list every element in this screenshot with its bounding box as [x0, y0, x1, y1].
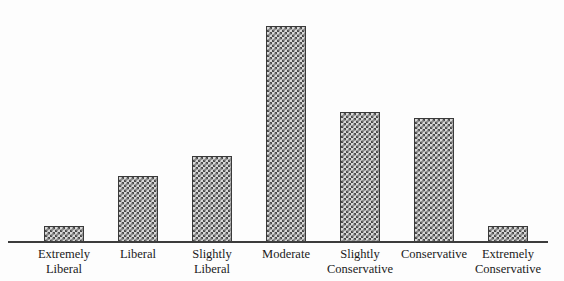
x-axis-label-line2: Liberal	[18, 262, 110, 277]
bar-rect[interactable]	[414, 118, 454, 243]
bar-rect[interactable]	[192, 156, 232, 243]
x-axis-label-line1: Moderate	[262, 247, 310, 261]
x-axis-line	[8, 241, 548, 243]
x-axis-label-line2: Conservative	[462, 262, 554, 277]
x-axis-label-line1: Extremely	[482, 247, 534, 261]
x-axis-label-extremely-conservative: Extremely Conservative	[462, 247, 554, 277]
plot-area: 2% 10% 13% 33% 20% 19% 2%	[0, 0, 564, 243]
x-axis-labels: Extremely Liberal Liberal Slightly Liber…	[0, 247, 564, 281]
bar-rect[interactable]	[266, 26, 306, 243]
bar-rect[interactable]	[118, 176, 158, 243]
x-axis-label-line1: Liberal	[120, 247, 156, 261]
x-axis-label-line2: Liberal	[166, 262, 258, 277]
x-axis-label-line1: Slightly	[340, 247, 380, 261]
x-axis-label-line1: Slightly	[192, 247, 232, 261]
bar-rect[interactable]	[340, 112, 380, 243]
x-axis-label-line1: Extremely	[38, 247, 90, 261]
x-axis-label-line1: Conservative	[401, 247, 467, 261]
bar-chart: 2% 10% 13% 33% 20% 19% 2%	[0, 0, 564, 281]
x-axis-label-line2: Conservative	[314, 262, 406, 277]
